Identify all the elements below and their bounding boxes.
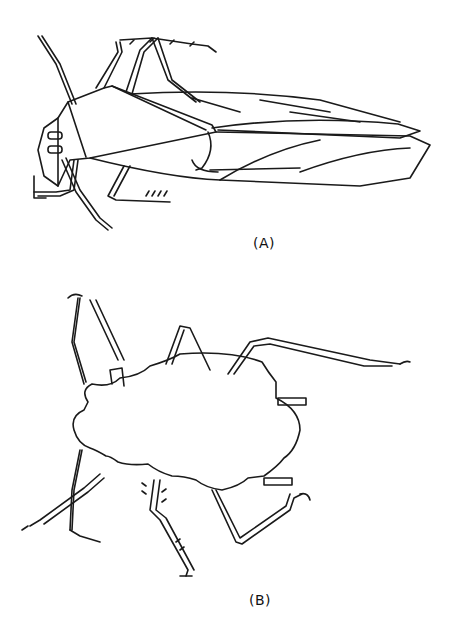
body-outline: [73, 353, 300, 490]
figure-a-adult-insect: (A): [0, 0, 450, 270]
adult-insect-drawing: [0, 0, 450, 270]
figure-label-b: (B): [249, 592, 271, 608]
nymph-insect-drawing: [0, 280, 450, 644]
figure-b-nymph-insect: (B): [0, 280, 450, 644]
figure-label-a: (A): [253, 235, 275, 251]
